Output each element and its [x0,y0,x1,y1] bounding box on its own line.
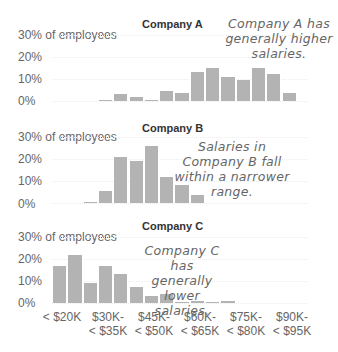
x-label-line1: < $20K [37,310,87,324]
x-label-line2: < $80K [221,324,271,338]
x-label-line1: $45K- [129,310,179,324]
panel-title: Company C [142,220,203,232]
y-tick-20: 20% [18,252,42,266]
x-label-line1: $30K- [83,310,133,324]
histogram-bar [83,283,98,303]
x-label: $75K- < $80K [221,310,271,338]
gridline [52,237,307,238]
histogram-bar [67,255,82,303]
x-label-line1: $60K- [175,310,225,324]
x-label: $30K- < $35K [83,310,133,338]
x-label: < $20K [37,310,87,324]
annotation-line: generally lower [132,273,232,303]
x-label-line2: < $35K [83,324,133,338]
x-label: $45K- < $50K [129,310,179,338]
x-label-line2: < $50K [129,324,179,338]
x-label-line1: $90K- [267,310,317,324]
x-label-line2: < $65K [175,324,225,338]
histogram-bar [98,266,113,303]
y-tick-0: 0% [18,296,35,310]
histogram-bar [113,274,128,303]
annotation-line: Company C has [132,243,232,273]
x-label-line1: $75K- [221,310,271,324]
x-label-line2: < $95K [267,324,317,338]
histogram-bar [52,266,67,303]
x-label: $60K- < $65K [175,310,225,338]
x-label: $90K- < $95K [267,310,317,338]
annotation-c: Company C has generally lower salaries. [132,243,232,318]
y-tick-10: 10% [18,274,42,288]
panel-company-c: Company C 30% of employees 20% 10% 0% Co… [0,0,338,352]
